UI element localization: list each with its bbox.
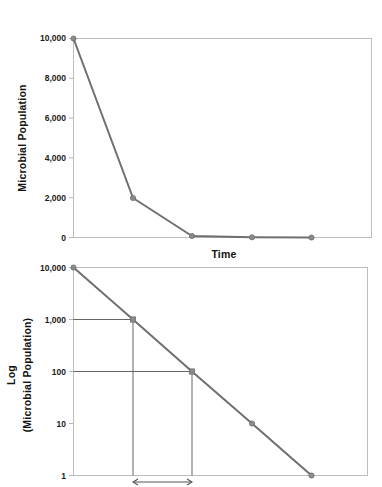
- log-ytick-100: 100: [52, 367, 66, 377]
- linear-chart-x-axis-title: Time: [211, 248, 236, 260]
- linear-ytick-10000: 10,000: [40, 33, 66, 43]
- linear-ytick-0: 0: [61, 233, 66, 243]
- log-ytick-10: 10: [57, 419, 67, 429]
- log-ytick-10000: 10,000: [40, 263, 66, 273]
- linear-ytick-8000: 8,000: [45, 73, 67, 83]
- log-chart-y-axis-title-line2: (Microbial Population): [21, 318, 33, 433]
- linear-chart-plot-area: [74, 39, 372, 238]
- log-population-chart: Log (Microbial Population) 10,000 1,000 …: [0, 262, 382, 487]
- linear-chart-series-line: [74, 39, 312, 238]
- log-chart-y-axis-title-line1: Log: [5, 365, 17, 385]
- linear-ytick-2000: 2,000: [45, 193, 67, 203]
- linear-chart-y-ticks: [69, 39, 73, 238]
- linear-ytick-6000: 6,000: [45, 113, 67, 123]
- linear-population-chart: Microbial Population 0 2,000 4,000 6,000…: [0, 0, 382, 262]
- log-chart-y-ticks: [69, 268, 73, 476]
- linear-chart-markers: [71, 36, 314, 240]
- linear-ytick-4000: 4,000: [45, 153, 67, 163]
- log-ytick-1: 1: [61, 471, 66, 481]
- log-chart-decimal-reduction-arrow: [133, 479, 192, 485]
- linear-chart-y-axis-title: Microbial Population: [16, 84, 28, 191]
- log-ytick-1000: 1,000: [45, 315, 67, 325]
- two-panel-figure: Microbial Population 0 2,000 4,000 6,000…: [0, 0, 382, 487]
